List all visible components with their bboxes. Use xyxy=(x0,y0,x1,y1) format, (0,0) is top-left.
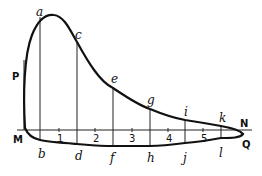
label-b: b xyxy=(38,147,46,161)
label-h: h xyxy=(147,151,155,165)
label-g: g xyxy=(147,93,155,107)
number-3: 3 xyxy=(129,133,135,144)
label-f: f xyxy=(109,151,117,165)
label-c: c xyxy=(75,28,82,42)
number-4: 4 xyxy=(166,133,172,144)
label-p: P xyxy=(12,71,19,82)
label-q: Q xyxy=(242,139,251,150)
number-2: 2 xyxy=(93,133,99,144)
label-j: j xyxy=(180,151,187,165)
label-m: M xyxy=(13,134,23,145)
number-1: 1 xyxy=(57,133,63,144)
indicator-curve xyxy=(24,15,243,146)
label-k: k xyxy=(219,111,226,125)
number-5: 5 xyxy=(201,133,207,144)
label-n: N xyxy=(240,118,248,129)
label-a: a xyxy=(36,5,43,19)
label-e: e xyxy=(111,72,118,86)
label-l: l xyxy=(219,146,223,160)
label-d: d xyxy=(75,149,83,163)
indicator-diagram: a c e g i k b d f h j l P M N Q 1 2 3 4 … xyxy=(0,0,262,176)
label-i: i xyxy=(184,105,188,119)
